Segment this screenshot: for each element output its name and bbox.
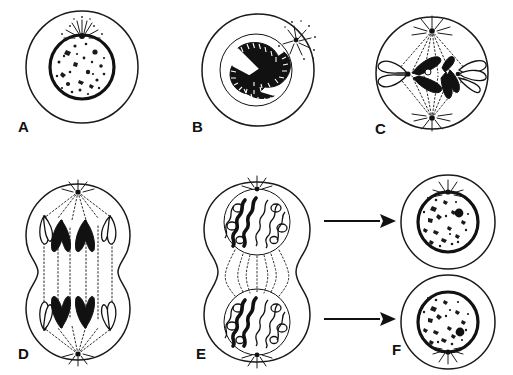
nucleolus <box>456 328 465 337</box>
panel-f-daughter-cells <box>390 170 513 375</box>
plasma-membrane-furrowing <box>26 184 130 360</box>
centrosome <box>445 349 450 354</box>
centrosome <box>445 189 450 194</box>
nuclear-envelope <box>418 192 478 252</box>
panel-label-f: F <box>392 341 402 358</box>
nuclear-envelope <box>50 35 114 99</box>
nucleolus <box>455 209 464 218</box>
nuclear-envelope <box>418 292 478 352</box>
centriole-top <box>255 187 260 192</box>
daughter-cell-top <box>401 175 495 269</box>
centriole-bottom <box>429 115 435 121</box>
arrow-e-to-f-bottom <box>320 306 400 332</box>
centriole-bottom <box>255 353 260 358</box>
centriole-top <box>429 28 435 34</box>
panel-label-a: A <box>18 118 29 135</box>
arrow-e-to-f-top <box>320 208 400 234</box>
daughter-cell-bottom <box>401 275 495 369</box>
panel-label-e: E <box>196 345 207 362</box>
centriole-bottom <box>75 351 80 356</box>
panel-label-b: B <box>192 118 203 135</box>
panel-label-d: D <box>18 345 29 362</box>
panel-label-c: C <box>375 120 386 137</box>
centriole-top <box>75 189 80 194</box>
mitosis-figure: A <box>0 0 513 375</box>
